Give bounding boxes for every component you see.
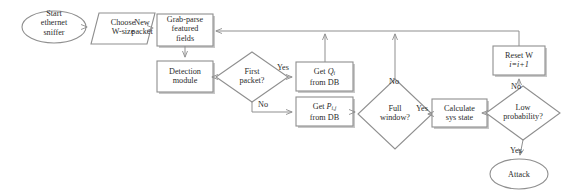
node-detection-shape bbox=[157, 61, 213, 92]
flowchart-canvas: Start ethernet sniffer Choose W-size Gra… bbox=[0, 0, 566, 196]
edge-label-low-prob-yes: Yes bbox=[505, 146, 527, 155]
node-get-p-shape bbox=[296, 97, 353, 126]
edge-reset-feedback-loop bbox=[216, 31, 519, 46]
node-full-window-shape bbox=[358, 79, 432, 149]
flowchart-graphics bbox=[0, 0, 566, 196]
edge-label-first-packet-no: No bbox=[253, 100, 273, 109]
edge-label-full-window-yes: Yes bbox=[411, 104, 433, 113]
edge-label-first-packet-yes: Yes bbox=[272, 63, 294, 72]
node-low-prob-shape bbox=[486, 86, 560, 140]
edge-label-low-prob-no: No bbox=[506, 82, 526, 91]
edge-label-new-packet: New packet bbox=[125, 18, 159, 37]
node-grab-parse-shape bbox=[157, 14, 213, 46]
node-start-shape bbox=[22, 11, 86, 43]
node-get-q-shape bbox=[296, 62, 353, 91]
node-reset-w-shape bbox=[493, 46, 545, 75]
node-calculate-shape bbox=[432, 99, 487, 127]
node-attack-shape bbox=[490, 159, 548, 189]
node-first-packet-shape bbox=[216, 52, 288, 102]
edge-label-full-window-no: No bbox=[383, 77, 405, 86]
